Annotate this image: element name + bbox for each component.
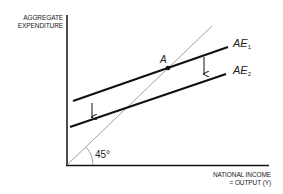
ae2-label-name: AE: [233, 64, 248, 76]
x-axis-label: NATIONAL INCOME = OUTPUT (Y): [190, 171, 271, 186]
ae1-label: AE1: [233, 37, 251, 50]
ae1-line: [73, 47, 228, 101]
ae1-label-name: AE: [233, 37, 248, 49]
ae2-label: AE2: [233, 64, 251, 77]
ae2-label-subscript: 2: [248, 71, 251, 77]
diagram-canvas: [0, 0, 283, 194]
equilibrium-point-a: [166, 66, 171, 71]
angle-label: 45°: [95, 149, 110, 160]
y-axis-label: AGGREGATE EXPENDITURE: [0, 14, 63, 29]
point-a-label: A: [160, 54, 167, 65]
ae2-line: [70, 74, 226, 127]
x-axis-label-line1: NATIONAL INCOME: [190, 171, 271, 179]
ae1-label-subscript: 1: [248, 44, 251, 50]
y-axis-label-line2: EXPENDITURE: [0, 22, 63, 30]
y-axis-label-line1: AGGREGATE: [0, 14, 63, 22]
angle-arc: [86, 147, 93, 165]
x-axis-label-line2: = OUTPUT (Y): [190, 179, 271, 187]
